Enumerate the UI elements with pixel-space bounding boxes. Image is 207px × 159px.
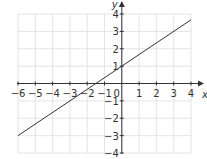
x-tick-label: −4 [45, 88, 60, 99]
y-tick-label: −2 [104, 113, 119, 124]
y-axis-label: y [111, 0, 119, 10]
x-tick-label: −6 [11, 88, 26, 99]
x-tick-label: 4 [188, 88, 194, 99]
line-chart: −6−5−4−3−2−11234−4−3−2−11234 x y 0 [0, 0, 207, 159]
y-tick-label: 4 [112, 9, 118, 20]
x-tick-label: 2 [153, 88, 159, 99]
x-axis-arrow [198, 81, 204, 87]
y-tick-label: 2 [112, 44, 118, 55]
y-tick-label: −4 [104, 148, 119, 159]
x-tick-label: 3 [171, 88, 177, 99]
y-axis-arrow [119, 1, 125, 7]
x-tick-label: 1 [136, 88, 142, 99]
y-tick-label: −3 [104, 131, 119, 142]
x-tick-label: −5 [28, 88, 43, 99]
x-axis-label: x [201, 89, 207, 100]
y-tick-label: 3 [112, 26, 118, 37]
origin-label: 0 [114, 88, 120, 99]
